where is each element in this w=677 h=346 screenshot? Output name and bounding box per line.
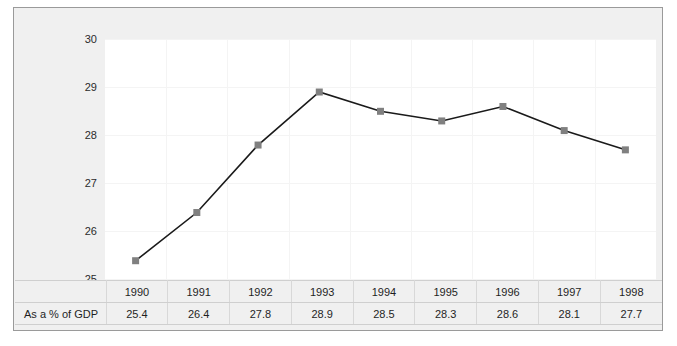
table-data-row: As a % of GDP 25.4 26.4 27.8 28.9 28.5 2…	[15, 303, 662, 325]
plot-area	[105, 39, 656, 280]
series-markers	[132, 89, 629, 265]
figure-frame: 30 29 28 27 26 25	[13, 7, 663, 331]
table-header-cell-1992: 1992	[230, 281, 292, 303]
table-header-cell-1994: 1994	[353, 281, 415, 303]
data-point-1990	[132, 257, 139, 264]
table-cell-1998: 27.7	[600, 303, 662, 325]
table-header-cell-1990: 1990	[106, 281, 168, 303]
y-tick-label: 30	[23, 34, 97, 45]
y-tick-label: 27	[23, 178, 97, 189]
data-point-1996	[499, 103, 506, 110]
data-point-1993	[316, 89, 323, 96]
data-point-1998	[622, 146, 629, 153]
table-cell-1996: 28.6	[477, 303, 539, 325]
table-cell-1992: 27.8	[230, 303, 292, 325]
table-header-row: 1990 1991 1992 1993 1994 1995 1996 1997 …	[15, 281, 662, 303]
data-table-wrapper: 1990 1991 1992 1993 1994 1995 1996 1997 …	[15, 280, 662, 323]
table-header-cell-1996: 1996	[477, 281, 539, 303]
data-point-1994	[377, 108, 384, 115]
data-point-1991	[193, 209, 200, 216]
table-corner-cell	[15, 281, 106, 303]
table-header-cell-1991: 1991	[168, 281, 230, 303]
table-header-cell-1998: 1998	[600, 281, 662, 303]
y-axis-tick-labels: 30 29 28 27 26 25	[14, 39, 97, 280]
table-cell-1991: 26.4	[168, 303, 230, 325]
data-table: 1990 1991 1992 1993 1994 1995 1996 1997 …	[15, 280, 662, 325]
table-cell-1990: 25.4	[106, 303, 168, 325]
table-cell-1995: 28.3	[415, 303, 477, 325]
table-cell-1994: 28.5	[353, 303, 415, 325]
table-row-label: As a % of GDP	[15, 303, 106, 325]
table-header-cell-1997: 1997	[538, 281, 600, 303]
data-series-gdp-percent	[105, 39, 656, 280]
y-tick-label: 26	[23, 226, 97, 237]
y-tick-label: 29	[23, 82, 97, 93]
table-cell-1997: 28.1	[538, 303, 600, 325]
series-line	[136, 92, 626, 261]
data-point-1997	[561, 127, 568, 134]
table-header-cell-1995: 1995	[415, 281, 477, 303]
table-cell-1993: 28.9	[291, 303, 353, 325]
data-point-1992	[255, 142, 262, 149]
data-point-1995	[438, 117, 445, 124]
table-header-cell-1993: 1993	[291, 281, 353, 303]
chart-figure: 30 29 28 27 26 25	[0, 0, 677, 346]
y-tick-label: 28	[23, 130, 97, 141]
